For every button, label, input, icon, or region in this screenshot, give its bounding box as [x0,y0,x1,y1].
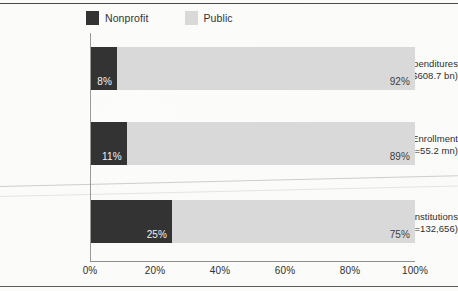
x-tick-label: 60% [275,265,295,276]
bar-segment-public: 75% [172,200,415,243]
category-label-line1: Institutions [412,211,458,222]
legend-swatch-public [185,11,198,25]
bar-value-label: 11% [102,151,122,162]
x-axis-line [90,261,415,262]
legend-label-nonprofit: Nonprofit [105,12,149,24]
chart-figure: Nonprofit Public Expenditures (n=$608.7 … [0,0,458,291]
bar-segment-nonprofit: 25% [91,200,172,243]
bar-segment-nonprofit: 11% [91,122,127,165]
chart-legend: Nonprofit Public [86,9,269,27]
bar-segment-public: 92% [117,47,415,90]
bar-row: 25% 75% [91,200,415,243]
bar-value-label: 25% [147,229,167,240]
figure-bottom-rule [0,286,458,287]
figure-top-rule [0,3,458,4]
legend-item-public: Public [185,11,233,25]
bar-segment-nonprofit: 8% [91,47,117,90]
legend-item-nonprofit: Nonprofit [86,11,149,25]
legend-label-public: Public [204,12,233,24]
legend-swatch-nonprofit [86,11,99,25]
bar-row: 8% 92% [91,47,415,90]
x-axis-tick-labels: 0%20%40%60%80%100% [90,265,415,279]
bar-value-label: 8% [97,76,112,87]
x-tick-label: 40% [210,265,230,276]
bar-row: 11% 89% [91,122,415,165]
x-tick-label: 100% [402,265,428,276]
plot-area: 8% 92% 11% 89% 25% 75% [90,33,415,262]
bar-value-label: 75% [390,229,410,240]
bar-segment-public: 89% [127,122,415,165]
bar-value-label: 92% [390,76,410,87]
category-label-line1: Enrollment [412,133,458,144]
x-tick-label: 20% [145,265,165,276]
x-tick-label: 80% [340,265,360,276]
x-tick-label: 0% [83,265,98,276]
bar-value-label: 89% [390,151,410,162]
